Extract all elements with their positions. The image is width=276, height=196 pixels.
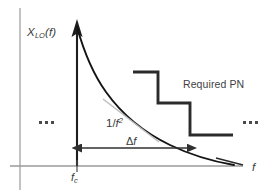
- ellipsis-dot: [249, 121, 252, 124]
- ellipsis-dot: [45, 121, 48, 124]
- x-axis-label: f: [252, 162, 255, 174]
- y-axis-label-subscript: LO: [35, 31, 45, 40]
- ellipsis-dot: [39, 121, 42, 124]
- slope-numerator: 1/: [106, 117, 116, 129]
- y-axis-label: XLO(f): [27, 27, 56, 40]
- phase-noise-diagram: XLO(f) 1/f2 Δf fc f Required PN: [0, 0, 276, 196]
- y-axis-label-argument: (f): [45, 26, 56, 38]
- delta-f-label: Δf: [126, 136, 136, 147]
- y-axis-label-main: X: [27, 26, 35, 38]
- phase-noise-curve: [77, 27, 234, 165]
- slope-annotation: 1/f2: [106, 117, 123, 130]
- slope-exponent: 2: [119, 116, 123, 125]
- left-ellipsis: [39, 121, 54, 124]
- ellipsis-dot: [255, 121, 258, 124]
- delta-f-variable: f: [133, 135, 136, 147]
- required-pn-label: Required PN: [183, 79, 244, 90]
- ellipsis-dot: [51, 121, 54, 124]
- right-ellipsis: [243, 121, 258, 124]
- fc-tick-label: fc: [71, 172, 78, 185]
- ellipsis-dot: [243, 121, 246, 124]
- fc-label-subscript: c: [74, 176, 78, 185]
